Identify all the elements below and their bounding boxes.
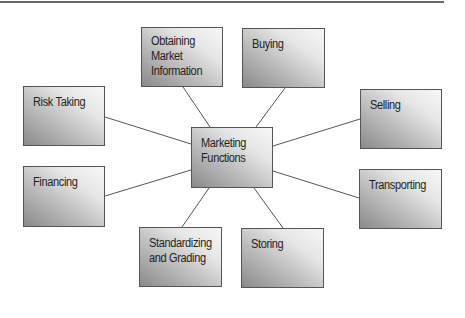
node-label: Risk Taking [33,95,95,110]
node-label: Buying [252,37,315,52]
node-label: Financing [33,175,95,190]
node-label: Standardizing and Grading [149,236,212,266]
node-marketing-functions: Marketing Functions [191,127,273,188]
node-standardizing-and-grading: Standardizing and Grading [139,227,222,287]
node-financing: Financing [23,166,105,227]
node-buying: Buying [242,28,325,88]
node-obtaining-market-information: Obtaining Market Information [141,27,223,87]
edge-risk-taking [105,117,191,144]
edge-selling [273,119,360,146]
node-label: Marketing Functions [201,136,271,166]
node-selling: Selling [360,89,442,149]
node-label: Selling [370,98,432,113]
edge-obtaining [183,87,210,127]
edge-standardizing [182,188,209,227]
edge-buying [256,88,285,127]
node-label: Transporting [369,178,432,193]
edge-transporting [273,171,359,198]
node-risk-taking: Risk Taking [23,86,105,146]
edge-storing [254,188,283,228]
node-label: Storing [251,237,314,252]
node-transporting: Transporting [359,169,442,229]
node-label: Obtaining Market Information [151,34,213,79]
node-storing: Storing [241,228,324,288]
edge-financing [105,170,191,196]
